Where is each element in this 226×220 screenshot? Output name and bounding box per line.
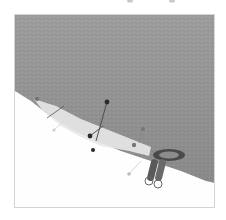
fabric-photo — [15, 15, 214, 207]
felt-fabric — [15, 15, 214, 183]
photo-frame — [14, 14, 215, 208]
cropped-top-marks — [0, 0, 226, 6]
